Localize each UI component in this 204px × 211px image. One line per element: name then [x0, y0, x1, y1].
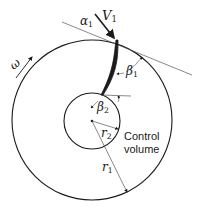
v1-label: V1 [102, 9, 117, 23]
r2-subscript: 2 [107, 132, 112, 141]
impeller-diagram: α1 V1 ω β1 β2 r2 r1 Control volume [0, 0, 204, 211]
beta1-subscript: 1 [133, 70, 138, 79]
beta2-arc [118, 96, 119, 102]
beta2-symbol: β [97, 100, 104, 114]
beta1-leader [117, 73, 124, 74]
r2-label: r2 [101, 127, 112, 141]
velocity-symbol: V [102, 8, 111, 23]
alpha-subscript: 1 [88, 20, 93, 29]
control-volume-label: Control volume [124, 130, 159, 156]
control-volume-line2: volume [124, 143, 159, 156]
velocity-subscript: 1 [111, 14, 116, 24]
alpha-symbol: α [80, 14, 88, 28]
alpha1-label: α1 [80, 15, 93, 29]
beta1-symbol: β [126, 64, 133, 78]
beta1-label: β1 [126, 65, 138, 79]
control-volume-line1: Control [124, 130, 159, 143]
beta2-label: β2 [97, 101, 109, 115]
blade [101, 40, 118, 95]
r1-subscript: 1 [108, 166, 113, 175]
beta2-subscript: 2 [104, 106, 109, 115]
r1-label: r1 [102, 161, 113, 175]
